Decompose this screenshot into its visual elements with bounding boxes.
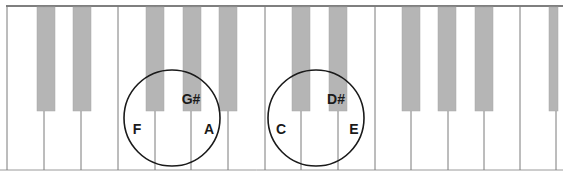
- black-key: [402, 7, 420, 111]
- black-key: [549, 7, 558, 111]
- black-key: [219, 7, 237, 111]
- black-key: [292, 7, 310, 111]
- note-label: A: [204, 121, 214, 137]
- note-label: E: [349, 121, 358, 137]
- piano-diagram: FG#ACD#E: [0, 0, 563, 176]
- black-key: [438, 7, 456, 111]
- note-label: F: [133, 121, 142, 137]
- black-key: [475, 7, 493, 111]
- note-label: C: [276, 121, 286, 137]
- black-key: [37, 7, 55, 111]
- note-label: G#: [182, 91, 201, 107]
- black-key: [73, 7, 91, 111]
- note-label: D#: [327, 91, 345, 107]
- black-key: [146, 7, 164, 111]
- keyboard-svg: FG#ACD#E: [0, 0, 563, 176]
